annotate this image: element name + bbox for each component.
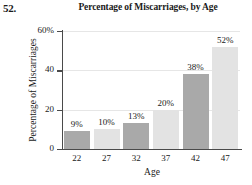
y-tick-mark xyxy=(57,149,62,150)
y-tick-label: 40 xyxy=(45,65,54,74)
x-axis-line xyxy=(62,149,242,150)
bar xyxy=(183,74,209,149)
bar-value-label: 38% xyxy=(176,63,216,72)
bar xyxy=(212,47,238,149)
y-tick-label: 20 xyxy=(45,105,54,114)
y-tick-label: 0 xyxy=(50,144,55,153)
bar-value-label: 13% xyxy=(116,112,156,121)
bar xyxy=(94,129,120,149)
bar xyxy=(153,110,179,149)
x-axis-title: Age xyxy=(62,167,242,177)
x-tick-label: 47 xyxy=(205,153,245,163)
y-axis-title: Percentage of Miscarriages xyxy=(28,24,38,156)
y-tick-label: 60% xyxy=(38,26,55,35)
chart-title: Percentage of Miscarriages, by Age xyxy=(46,2,250,12)
y-tick-mark xyxy=(57,70,62,71)
problem-number: 52. xyxy=(3,2,16,14)
bar xyxy=(123,123,149,149)
bar-value-label: 20% xyxy=(146,99,186,108)
bar-value-label: 52% xyxy=(205,36,245,45)
bar xyxy=(64,131,90,149)
y-tick-mark xyxy=(57,31,62,32)
y-tick-mark xyxy=(57,110,62,111)
figure: 52. Percentage of Miscarriages, by Age P… xyxy=(0,0,252,185)
